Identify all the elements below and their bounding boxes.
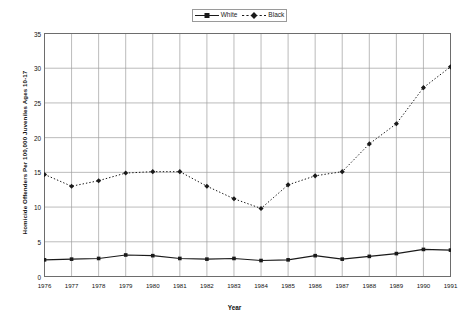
data-point — [367, 141, 372, 146]
y-axis-tick-label: 10 — [34, 204, 41, 211]
data-point — [69, 184, 74, 189]
chart-figure: White Black Homicide Offenders Per 100,0… — [0, 0, 469, 325]
x-axis-tick-label: 1982 — [200, 282, 214, 289]
x-axis-tick-label: 1984 — [254, 282, 268, 289]
y-axis-tick-label: 20 — [34, 134, 41, 141]
plot-canvas — [44, 33, 451, 277]
data-point — [150, 169, 155, 174]
y-axis-tick-label: 25 — [34, 99, 41, 106]
plot-border — [45, 34, 451, 277]
legend-swatch-white-icon — [195, 12, 219, 19]
data-point — [70, 257, 74, 261]
x-axis-tick-label: 1977 — [65, 282, 79, 289]
x-axis-tick-label: 1985 — [281, 282, 295, 289]
data-point — [231, 196, 236, 201]
data-point — [44, 258, 46, 262]
legend-label-black: Black — [268, 12, 284, 19]
data-point — [177, 169, 182, 174]
plot-area: 05101520253035 1976197719781979198019811… — [44, 33, 451, 277]
data-series-layer — [44, 64, 451, 262]
x-axis-tick-label: 1990 — [417, 282, 431, 289]
data-point — [313, 173, 318, 178]
data-point — [286, 258, 290, 262]
chart-legend: White Black — [192, 9, 287, 22]
data-point — [259, 259, 263, 263]
x-axis-tick-label: 1987 — [335, 282, 349, 289]
legend-swatch-black-icon — [242, 12, 266, 19]
x-axis-tick-label: 1983 — [227, 282, 241, 289]
y-axis-tick-label: 35 — [34, 30, 41, 37]
x-axis-tick-label: 1976 — [38, 282, 52, 289]
x-axis-tick-label: 1989 — [390, 282, 404, 289]
y-axis-tick-label: 30 — [34, 65, 41, 72]
data-point — [232, 257, 236, 261]
data-point — [205, 257, 209, 261]
legend-label-white: White — [221, 12, 238, 19]
data-point — [395, 252, 399, 256]
legend-item-white: White — [195, 12, 238, 19]
data-point — [449, 248, 451, 252]
data-point — [178, 257, 182, 261]
y-axis-tick-label: 0 — [37, 273, 41, 280]
vertical-gridlines — [72, 34, 424, 277]
x-axis-tick-label: 1988 — [363, 282, 377, 289]
series-white — [44, 248, 451, 263]
data-point — [422, 248, 426, 252]
x-axis-tick-label: 1979 — [119, 282, 133, 289]
legend-item-black: Black — [242, 12, 284, 19]
x-axis-tick-label: 1986 — [308, 282, 322, 289]
data-point — [124, 253, 128, 257]
data-point — [151, 254, 155, 258]
x-axis-tick-label: 1978 — [92, 282, 106, 289]
x-axis-tick-label: 1980 — [146, 282, 160, 289]
horizontal-gridlines — [45, 68, 451, 242]
data-point — [313, 254, 317, 258]
data-point — [123, 171, 128, 176]
x-axis-title: Year — [0, 304, 469, 311]
data-point — [97, 257, 101, 261]
data-point — [368, 255, 372, 259]
x-axis-tick-label: 1981 — [173, 282, 187, 289]
y-axis-title: Homicide Offenders Per 100,000 Juveniles… — [21, 48, 28, 258]
x-axis-tick-label: 1991 — [444, 282, 458, 289]
y-axis-tick-label: 15 — [34, 169, 41, 176]
data-point — [204, 184, 209, 189]
y-axis-tick-label: 5 — [37, 238, 41, 245]
data-point — [340, 257, 344, 261]
series-line — [45, 249, 451, 260]
data-point — [96, 178, 101, 183]
